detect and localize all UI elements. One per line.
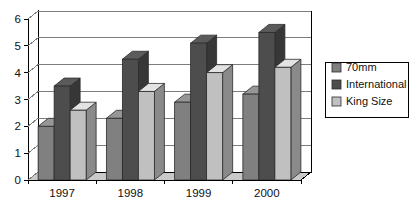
legend-swatch (332, 97, 341, 106)
y-tick-label: 6 (15, 13, 21, 25)
x-tick-label: 1997 (49, 187, 75, 199)
y-tick-label: 0 (15, 174, 21, 186)
x-axis: 1997199819992000 (28, 180, 301, 199)
y-tick-label: 2 (15, 120, 21, 132)
bar-king-size-1997 (70, 102, 96, 180)
legend-swatch (332, 63, 341, 72)
legend-label: International (346, 78, 407, 90)
legend-swatch (332, 80, 341, 89)
chart-canvas: 0123456 1997199819992000 70mmInternation… (0, 0, 415, 218)
bar-king-size-1998 (138, 83, 164, 180)
bar-king-size-1999 (207, 65, 233, 180)
x-tick-label: 1999 (186, 187, 212, 199)
bar-chart: 0123456 1997199819992000 70mmInternation… (0, 0, 415, 218)
y-axis-ticks: 0123456 (15, 13, 28, 186)
y-tick-label: 4 (15, 67, 22, 79)
x-tick-label: 1998 (118, 187, 144, 199)
legend-label: King Size (346, 95, 392, 107)
chart-legend: 70mmInternationalKing Size (326, 61, 409, 118)
legend-item[interactable]: 70mm (332, 61, 377, 73)
legend-item[interactable]: King Size (332, 95, 392, 107)
legend-label: 70mm (346, 61, 377, 73)
y-tick-label: 3 (15, 94, 21, 106)
bar-king-size-2000 (275, 59, 301, 180)
y-tick-label: 1 (15, 147, 21, 159)
x-tick-label: 2000 (254, 187, 280, 199)
y-tick-label: 5 (15, 40, 21, 52)
